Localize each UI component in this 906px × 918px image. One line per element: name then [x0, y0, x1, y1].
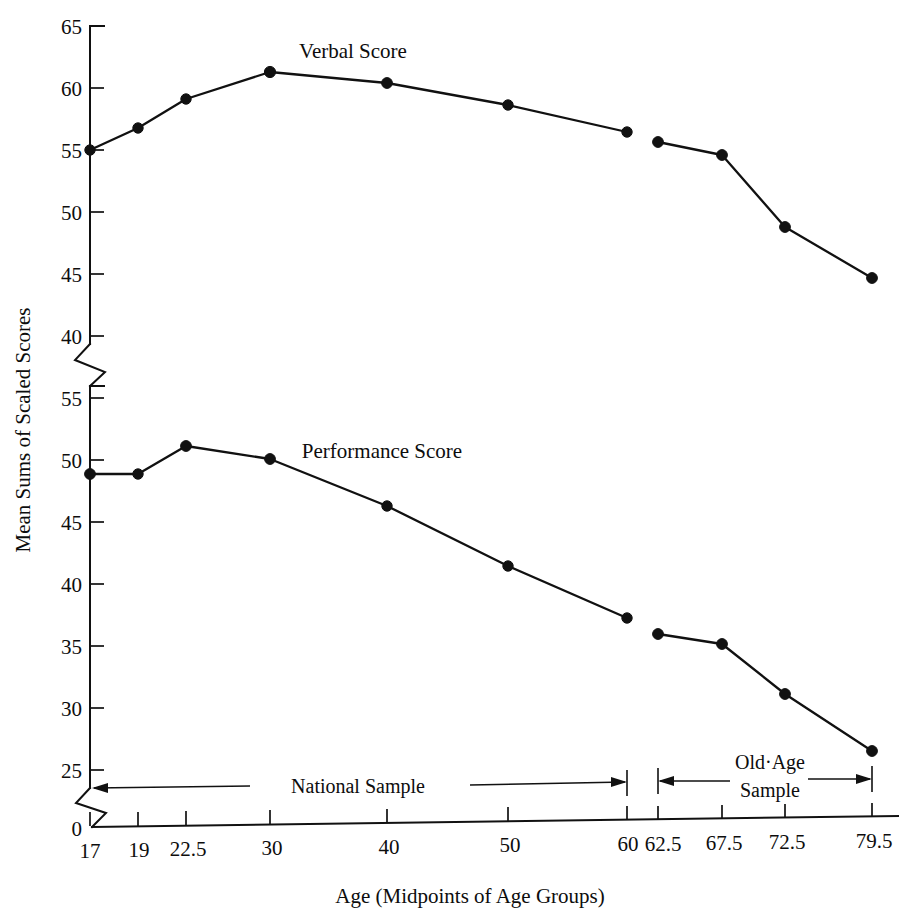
ytick-label: 35 — [61, 635, 82, 659]
xtick-label: 62.5 — [645, 832, 682, 856]
data-point — [181, 441, 192, 452]
xtick-label: 40 — [379, 835, 400, 859]
xtick-label: 30 — [262, 836, 283, 860]
ytick-label: 45 — [61, 511, 82, 535]
performance-axis-ticks — [90, 398, 104, 770]
performance-markers — [85, 441, 878, 757]
ytick-label: 30 — [61, 697, 82, 721]
xtick-label: 50 — [500, 833, 521, 857]
data-point — [264, 66, 275, 77]
verbal-oldage-line — [658, 142, 872, 278]
ytick-label: 40 — [61, 573, 82, 597]
performance-panel-axis: 55 50 45 40 35 30 25 — [61, 386, 104, 788]
old-age-sample-bracket: Old·Age Sample — [658, 751, 872, 802]
xtick-label: 79.5 — [856, 829, 893, 853]
data-point — [181, 94, 191, 104]
data-point — [622, 613, 632, 623]
x-axis: 17 19 22.5 30 40 50 60 62.5 67.5 72.5 79… — [80, 803, 899, 908]
data-point — [717, 639, 728, 650]
national-sample-bracket: National Sample — [92, 770, 627, 798]
data-point — [653, 137, 664, 148]
arrow-left-icon — [92, 783, 108, 793]
arrow-right-icon — [611, 777, 627, 787]
verbal-score-label: Verbal Score — [299, 39, 407, 63]
data-point — [85, 145, 95, 155]
x-axis-title-text: Age (Midpoints of Age Groups) — [335, 884, 604, 908]
ytick-label: 45 — [61, 263, 82, 287]
national-sample-label: National Sample — [291, 775, 425, 798]
y-axis-title-text: Mean Sums of Scaled Scores — [11, 308, 35, 553]
data-point — [867, 746, 878, 757]
y-axis-break-zero-icon: 0 — [72, 788, 107, 841]
data-point — [503, 561, 513, 571]
data-point — [382, 78, 393, 89]
old-age-sample-label-line1: Old·Age — [735, 751, 805, 774]
ytick-label: 50 — [61, 201, 82, 225]
old-age-sample-label-line2: Sample — [740, 779, 800, 802]
xtick-label: 67.5 — [706, 831, 743, 855]
performance-axis-tick-labels: 55 50 45 40 35 30 25 — [61, 387, 82, 783]
data-point — [780, 222, 791, 233]
ytick-label: 25 — [61, 759, 82, 783]
data-point — [867, 273, 878, 284]
ytick-label: 40 — [61, 325, 82, 349]
x-axis-tick-labels: 17 19 22.5 30 40 50 60 62.5 67.5 72.5 79… — [80, 829, 893, 863]
chart-container: Mean Sums of Scaled Scores 65 60 55 50 — [0, 0, 906, 918]
data-point — [382, 501, 392, 511]
verbal-axis-ticks — [90, 88, 104, 336]
verbal-panel-axis: 65 60 55 50 45 40 — [61, 15, 104, 349]
data-point — [717, 150, 728, 161]
ytick-label: 55 — [61, 387, 82, 411]
performance-score-label: Performance Score — [302, 439, 462, 463]
xtick-label: 17 — [80, 839, 101, 863]
y-axis-title: Mean Sums of Scaled Scores — [11, 308, 35, 553]
data-point — [503, 100, 513, 110]
arrow-right-icon — [856, 774, 872, 784]
verbal-score-series: Verbal Score — [85, 39, 878, 283]
verbal-axis-tick-labels: 65 60 55 50 45 40 — [61, 15, 82, 349]
data-point — [85, 469, 96, 480]
performance-score-series: Performance Score — [85, 439, 878, 756]
data-point — [265, 454, 276, 465]
x-axis-line — [92, 816, 898, 827]
chart-svg: Mean Sums of Scaled Scores 65 60 55 50 — [0, 0, 906, 918]
xtick-label: 19 — [129, 838, 150, 862]
y-axis-break-icon — [75, 344, 105, 386]
arrow-left-icon — [658, 776, 674, 786]
data-point — [653, 629, 664, 640]
ytick-label: 60 — [61, 77, 82, 101]
data-point — [133, 469, 143, 479]
performance-national-line — [90, 446, 627, 618]
data-point — [133, 123, 143, 133]
ytick-label: 50 — [61, 449, 82, 473]
data-point — [622, 127, 632, 137]
xtick-label: 72.5 — [769, 830, 806, 854]
xtick-label: 60 — [618, 832, 639, 856]
ytick-label: 55 — [61, 139, 82, 163]
zero-label: 0 — [72, 817, 83, 841]
xtick-label: 22.5 — [170, 837, 207, 861]
performance-oldage-line — [658, 634, 872, 751]
ytick-label: 65 — [61, 15, 82, 39]
verbal-national-line — [90, 72, 627, 150]
data-point — [780, 689, 791, 700]
